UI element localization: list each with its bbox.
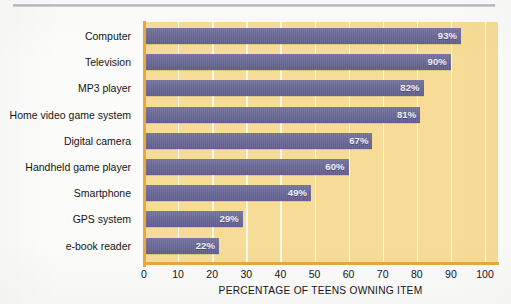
bar-row: 82% xyxy=(143,80,498,96)
bar: 81% xyxy=(144,107,420,123)
x-tick-label: 20 xyxy=(206,267,218,281)
x-tick-label: 70 xyxy=(377,267,389,281)
bar-value-label: 22% xyxy=(196,238,215,254)
x-axis-title: PERCENTAGE OF TEENS OWNING ITEM xyxy=(143,285,498,296)
bar: 22% xyxy=(144,238,219,254)
bar: 60% xyxy=(144,159,349,175)
bar: 49% xyxy=(144,185,311,201)
category-label: MP3 player xyxy=(0,80,137,96)
bar-value-label: 93% xyxy=(438,28,457,44)
bar-value-label: 49% xyxy=(288,185,307,201)
x-tick-label: 30 xyxy=(240,267,252,281)
x-tick-label: 10 xyxy=(172,267,184,281)
category-label: GPS system xyxy=(0,211,137,227)
bar: 82% xyxy=(144,80,424,96)
bar-row: 29% xyxy=(143,211,498,227)
x-tick-label: 90 xyxy=(445,267,457,281)
category-axis-labels: ComputerTelevisionMP3 playerHome video g… xyxy=(0,22,137,264)
bar-value-label: 90% xyxy=(428,54,447,70)
y-axis-line xyxy=(143,21,146,267)
bar-row: 22% xyxy=(143,238,498,254)
category-label: Home video game system xyxy=(0,107,137,123)
x-tick-label: 0 xyxy=(141,267,147,281)
x-tick-label: 100 xyxy=(476,267,494,281)
bar-value-label: 82% xyxy=(400,80,419,96)
x-tick-label: 60 xyxy=(343,267,355,281)
bar-row: 93% xyxy=(143,28,498,44)
top-divider-rule xyxy=(13,4,495,7)
bar-chart-figure: 93%90%82%81%67%60%49%29%22% ComputerTele… xyxy=(0,0,511,304)
category-label: e-book reader xyxy=(0,238,137,254)
category-label: Digital camera xyxy=(0,133,137,149)
bar-row: 67% xyxy=(143,133,498,149)
bar-value-label: 29% xyxy=(220,211,239,227)
bar-row: 81% xyxy=(143,107,498,123)
x-tick-label: 50 xyxy=(309,267,321,281)
x-axis-line xyxy=(143,262,499,265)
bar-row: 60% xyxy=(143,159,498,175)
bar-value-label: 60% xyxy=(325,159,344,175)
bar-row: 90% xyxy=(143,54,498,70)
bar: 90% xyxy=(144,54,451,70)
category-label: Handheld game player xyxy=(0,159,137,175)
x-tick-label: 40 xyxy=(275,267,287,281)
category-label: Smartphone xyxy=(0,185,137,201)
bar: 29% xyxy=(144,211,243,227)
plot-area: 93%90%82%81%67%60%49%29%22% xyxy=(143,22,498,264)
category-label: Television xyxy=(0,54,137,70)
bar-value-label: 67% xyxy=(349,133,368,149)
bar-value-label: 81% xyxy=(397,107,416,123)
plot-inner: 93%90%82%81%67%60%49%29%22% xyxy=(143,22,498,264)
x-axis-tick-labels: 0102030405060708090100 xyxy=(0,267,511,283)
bar: 93% xyxy=(144,28,461,44)
x-tick-label: 80 xyxy=(411,267,423,281)
bar: 67% xyxy=(144,133,372,149)
bar-row: 49% xyxy=(143,185,498,201)
category-label: Computer xyxy=(0,28,137,44)
